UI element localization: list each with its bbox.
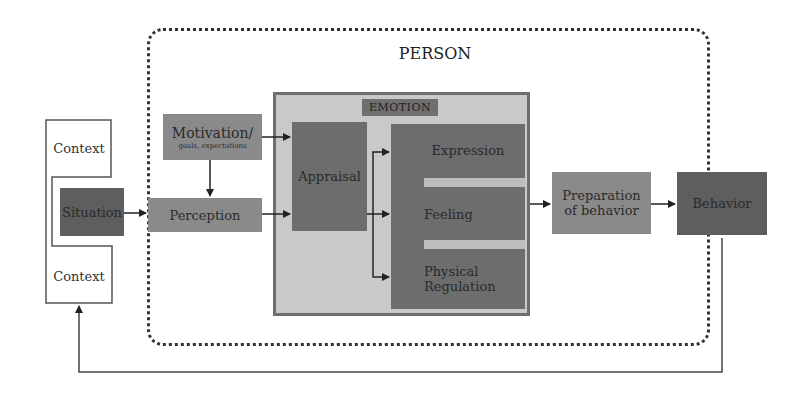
context-frame bbox=[46, 120, 112, 303]
arrow-appraisal-physical bbox=[373, 214, 389, 277]
connector-layer bbox=[0, 0, 809, 397]
feedback-loop-arrow bbox=[79, 238, 722, 372]
arrow-appraisal-expression bbox=[373, 152, 389, 214]
